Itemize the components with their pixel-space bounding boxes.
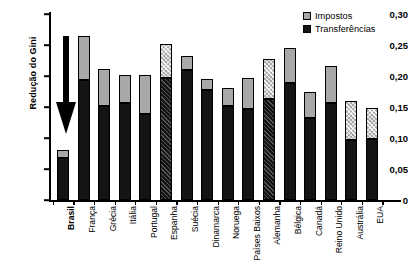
x-tick-mark	[135, 200, 136, 205]
x-tick-mark	[321, 200, 322, 205]
x-axis-line	[49, 200, 401, 202]
bar-segment-impostos	[160, 44, 172, 79]
x-label-brasil: Brasil	[66, 206, 76, 230]
x-label-bélgica: Bélgica	[293, 206, 303, 234]
bar-segment-transferencias	[263, 99, 275, 200]
bar-belgica	[284, 48, 296, 200]
bar-dinamarca	[201, 79, 213, 200]
bar-segment-transferencias	[78, 80, 90, 200]
bar-segment-transferencias	[139, 114, 151, 200]
y-tick-mark	[44, 137, 50, 139]
x-tick-mark	[382, 200, 383, 205]
bar-segment-impostos	[139, 75, 151, 114]
bar-segment-impostos	[98, 69, 110, 106]
bar-canada	[304, 92, 316, 201]
y-tick-label: 0,10	[374, 133, 408, 144]
x-tick-mark	[341, 200, 342, 205]
y-tick-mark	[44, 106, 50, 108]
bar-paises-baixos	[242, 78, 254, 200]
down-arrow-icon	[56, 36, 76, 134]
x-label-dinamarca: Dinamarca	[211, 206, 221, 248]
bar-segment-transferencias	[57, 158, 69, 200]
bar-segment-impostos	[242, 78, 254, 108]
y-tick-label: 0,05	[374, 164, 408, 175]
x-tick-mark	[279, 200, 280, 205]
bar-segment-transferencias	[345, 140, 357, 200]
y-tick-mark	[44, 75, 50, 77]
bar-segment-transferencias	[222, 106, 234, 200]
bar-segment-transferencias	[98, 106, 110, 200]
bar-brasil	[57, 150, 69, 200]
bar-segment-impostos	[78, 36, 90, 80]
y-tick-mark	[44, 199, 50, 201]
legend-label-impostos: Impostos	[315, 11, 352, 21]
bar-segment-impostos	[57, 150, 69, 157]
bar-noruega	[222, 88, 234, 200]
bar-segment-transferencias	[366, 139, 378, 200]
x-tick-mark	[176, 200, 177, 205]
bar-suecia	[181, 56, 193, 200]
y-tick-label: 0,25	[374, 40, 408, 51]
bar-australia	[345, 101, 357, 200]
legend-item-transferencias: Transferências	[303, 24, 375, 34]
bar-segment-transferencias	[325, 103, 337, 200]
x-label-canadá: Canadá	[314, 206, 324, 236]
y-tick-mark	[44, 13, 50, 15]
x-tick-mark	[218, 200, 219, 205]
bar-portugal	[139, 75, 151, 200]
bar-segment-transferencias	[181, 70, 193, 200]
y-tick-label: 0,15	[374, 102, 408, 113]
bar-segment-transferencias	[284, 83, 296, 200]
x-tick-mark	[300, 200, 301, 205]
y-tick-mark	[44, 44, 50, 46]
chart-figure: Redução do Gini 00,050,100,150,200,250,3…	[0, 0, 408, 278]
bar-espanha	[160, 44, 172, 200]
down-arrow-annotation	[56, 36, 76, 134]
bar-segment-impostos	[181, 56, 193, 70]
y-axis-title: Redução do Gini	[28, 0, 38, 153]
legend-item-impostos: Impostos	[303, 11, 375, 21]
x-label-suécia: Suécia	[190, 206, 200, 232]
bar-eua	[366, 108, 378, 200]
x-label-grécia: Grécia	[108, 206, 118, 231]
y-tick-label: 0,30	[374, 9, 408, 20]
x-label-noruega: Noruega	[231, 206, 241, 239]
x-label-espanha: Espanha	[169, 206, 179, 240]
transfer-swatch-icon	[303, 25, 311, 33]
bar-segment-transferencias	[304, 118, 316, 200]
bar-segment-transferencias	[119, 103, 131, 200]
bar-segment-impostos	[201, 79, 213, 90]
chart-legend: Impostos Transferências	[303, 11, 375, 37]
x-label-portugal: Portugal	[149, 206, 159, 238]
x-tick-mark	[238, 200, 239, 205]
x-tick-mark	[259, 200, 260, 205]
bar-segment-impostos	[284, 48, 296, 83]
y-tick-mark	[44, 168, 50, 170]
bar-reino-unido	[325, 66, 337, 200]
bar-franca	[78, 36, 90, 200]
x-tick-mark	[53, 200, 54, 205]
bar-segment-transferencias	[160, 78, 172, 200]
tax-swatch-icon	[303, 12, 311, 20]
x-label-países-baixos: Países Baixos	[252, 206, 262, 260]
bar-segment-impostos	[222, 88, 234, 105]
bar-italia	[119, 75, 131, 200]
bar-segment-impostos	[119, 75, 131, 102]
y-tick-label: 0,20	[374, 71, 408, 82]
x-tick-mark	[362, 200, 363, 205]
x-label-alemanha: Alemanha	[272, 206, 282, 245]
y-tick-label: 0	[374, 195, 408, 206]
x-tick-mark	[115, 200, 116, 205]
x-tick-mark	[94, 200, 95, 205]
bar-segment-impostos	[263, 59, 275, 99]
bar-segment-impostos	[345, 101, 357, 139]
bar-segment-transferencias	[242, 109, 254, 200]
x-tick-mark	[197, 200, 198, 205]
x-tick-mark	[156, 200, 157, 205]
x-label-eua: EUA	[375, 206, 385, 224]
bar-segment-impostos	[304, 92, 316, 119]
x-tick-mark	[73, 200, 74, 205]
x-label-itália: Itália	[128, 206, 138, 224]
bar-grecia	[98, 69, 110, 200]
bar-segment-impostos	[325, 66, 337, 103]
